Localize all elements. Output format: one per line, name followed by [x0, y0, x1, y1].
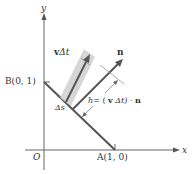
delta-s-label: Δs	[55, 104, 65, 112]
n-label: n	[117, 48, 124, 57]
line-ba	[44, 82, 115, 150]
y-axis-label: y	[41, 4, 46, 13]
x-axis-label: x	[182, 146, 187, 155]
diagram-canvas	[0, 0, 194, 174]
v-dt-label: vΔt	[54, 48, 69, 57]
point-b-label: B(0, 1)	[5, 77, 36, 86]
point-a-label: A(1, 0)	[97, 153, 128, 162]
h-reference-line	[100, 65, 124, 84]
h-formula-label: h= ( v Δt) · n	[88, 96, 141, 105]
y-axis	[42, 13, 47, 170]
origin-label: O	[33, 153, 40, 162]
